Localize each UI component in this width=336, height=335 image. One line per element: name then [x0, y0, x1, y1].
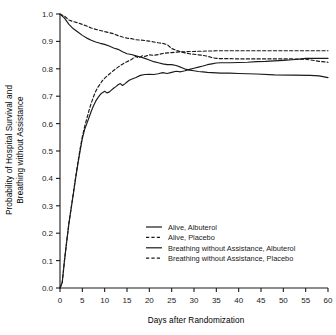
- x-tick-label: 35: [212, 296, 221, 305]
- x-axis-title: Days after Randomization: [60, 316, 332, 325]
- x-tick-label: 25: [167, 296, 176, 305]
- x-tick-label: 45: [257, 296, 266, 305]
- figure-container: Probability of Hospital Survival and Bre…: [0, 0, 336, 335]
- x-tick-label: 15: [123, 296, 132, 305]
- x-tick-label: 10: [100, 296, 109, 305]
- legend-label-1: Alive, Albuterol: [168, 223, 217, 232]
- x-tick-label: 50: [279, 296, 288, 305]
- y-axis-ticks: 0.00.10.20.30.40.50.60.70.80.91.0: [42, 10, 60, 293]
- y-tick-label: 0.7: [42, 92, 54, 101]
- y-tick-label: 0.3: [42, 202, 54, 211]
- x-tick-label: 30: [190, 296, 199, 305]
- x-tick-label: 5: [80, 296, 85, 305]
- series-line-2: [60, 14, 328, 62]
- y-tick-label: 0.0: [42, 284, 54, 293]
- y-tick-label: 0.6: [42, 120, 54, 129]
- x-tick-label: 40: [234, 296, 243, 305]
- y-tick-label: 0.9: [42, 37, 54, 46]
- legend-label-2: Alive, Placebo: [168, 233, 215, 242]
- legend-label-3: Breathing without Assistance, Albuterol: [168, 244, 296, 253]
- x-axis-ticks: 051015202530354045505560: [58, 288, 333, 305]
- y-tick-label: 1.0: [42, 10, 54, 19]
- chart-plot-area: 0.00.10.20.30.40.50.60.70.80.91.0 051015…: [0, 0, 336, 335]
- y-tick-label: 0.1: [42, 257, 54, 266]
- x-tick-label: 0: [58, 296, 63, 305]
- x-tick-label: 60: [324, 296, 333, 305]
- chart-legend: Alive, AlbuterolAlive, PlaceboBreathing …: [146, 223, 296, 263]
- legend-label-4: Breathing without Assistance, Placebo: [168, 254, 293, 263]
- y-tick-label: 0.5: [42, 147, 54, 156]
- y-tick-label: 0.8: [42, 65, 54, 74]
- y-tick-label: 0.2: [42, 229, 54, 238]
- x-tick-label: 55: [301, 296, 310, 305]
- x-tick-label: 20: [145, 296, 154, 305]
- y-tick-label: 0.4: [42, 174, 54, 183]
